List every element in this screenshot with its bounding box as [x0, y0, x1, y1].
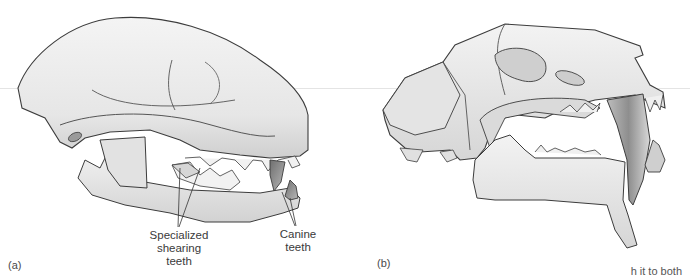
panel-a-carnivore-skull: Specialized shearing teeth Canine teeth …	[0, 0, 345, 279]
panel-tag-b: (b)	[377, 257, 390, 269]
cropped-caption-text: h it to both	[631, 265, 682, 277]
label-canine-teeth: Canine teeth	[278, 228, 318, 254]
label-line-1: Specialized	[148, 229, 210, 242]
panel-b-sabertooth-skull: (b)	[345, 0, 690, 279]
label-line-2: teeth	[278, 241, 318, 254]
panel-tag-a: (a)	[8, 259, 21, 271]
sabertooth-skull-illustration	[345, 0, 690, 279]
label-line-1: Canine	[278, 228, 318, 241]
label-specialized-shearing-teeth: Specialized shearing teeth	[148, 229, 210, 268]
label-line-2: shearing teeth	[148, 242, 210, 268]
